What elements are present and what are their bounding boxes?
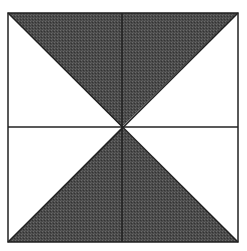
square-diagram — [0, 0, 247, 251]
